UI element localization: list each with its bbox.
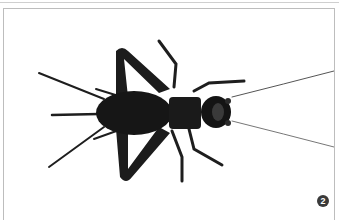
figure-number-badge: 2 [317,195,329,207]
top-rule [0,0,339,3]
cricket-photo [4,9,334,220]
image-frame: 2 [3,8,335,220]
